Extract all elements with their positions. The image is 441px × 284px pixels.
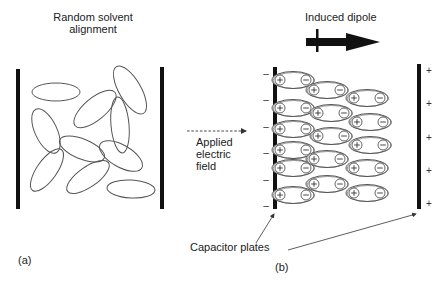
induced-dipole-molecule <box>306 176 348 193</box>
positive-charge-sign: + <box>426 65 432 76</box>
panel-a-title: Random solvent alignment <box>38 11 148 35</box>
applied-field-label-line1: Applied <box>196 136 233 148</box>
induced-dipole-molecule <box>272 121 314 138</box>
capacitor-plates-label: Capacitor plates <box>190 241 270 253</box>
panel-b-title: Induced dipole <box>305 11 377 23</box>
solvent-molecule <box>24 144 69 196</box>
solvent-molecule <box>95 134 148 177</box>
negative-charge-sign: – <box>263 94 269 105</box>
panel-a-right-plate <box>160 67 164 209</box>
positive-charge-sign: + <box>426 165 432 176</box>
negative-charge-sign: – <box>263 68 269 79</box>
panel-a-caption: (a) <box>18 254 31 266</box>
panel-b-right-plate <box>417 64 421 209</box>
pointer-left-plate <box>256 214 274 243</box>
solvent-molecule <box>26 105 66 158</box>
induced-dipole-molecule <box>272 187 314 204</box>
negative-charge-sign: – <box>263 200 269 211</box>
negative-charge-sign: – <box>263 174 269 185</box>
induced-dipole-molecule <box>346 185 388 202</box>
negative-charge-sign: – <box>263 121 269 132</box>
panel-a-title-line1: Random solvent <box>38 11 148 23</box>
solvent-molecule <box>107 179 156 199</box>
induced-dipole-molecule <box>306 82 348 99</box>
induced-dipole-molecule <box>310 128 352 145</box>
panel-b-left-plate <box>273 67 277 209</box>
positive-charge-sign: + <box>426 98 432 109</box>
induced-dipole-molecule <box>306 151 348 168</box>
applied-field-label-line3: field <box>196 160 233 172</box>
panel-b-caption: (b) <box>275 261 288 273</box>
aligned-dipoles <box>272 72 391 204</box>
positive-charge-sign: + <box>426 132 432 143</box>
pointer-right-plate <box>288 214 416 250</box>
induced-dipole-arrow <box>306 29 380 52</box>
solvent-molecule <box>107 61 153 119</box>
random-molecules <box>24 61 155 199</box>
induced-dipole-molecule <box>346 90 388 107</box>
solvent-molecule <box>32 83 80 101</box>
negative-charge-sign: – <box>263 147 269 158</box>
solvent-molecule <box>109 96 132 153</box>
induced-dipole-molecule <box>349 137 391 154</box>
solvent-molecule <box>68 84 122 134</box>
applied-field-label-line2: electric <box>196 148 233 160</box>
applied-field-label: Applied electric field <box>196 136 233 172</box>
induced-dipole-molecule <box>349 114 391 131</box>
panel-a-left-plate <box>16 69 20 209</box>
induced-dipole-molecule <box>346 160 388 177</box>
induced-dipole-molecule <box>310 105 352 122</box>
panel-a-title-line2: alignment <box>38 23 148 35</box>
induced-dipole-molecule <box>272 100 314 117</box>
positive-charge-sign: + <box>426 198 432 209</box>
